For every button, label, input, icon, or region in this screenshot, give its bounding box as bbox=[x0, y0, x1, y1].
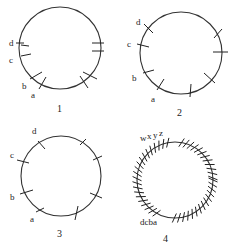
tick-d bbox=[38, 141, 45, 149]
label-d: d bbox=[9, 38, 14, 48]
panel-number: 3 bbox=[57, 228, 62, 239]
label-b: b bbox=[10, 192, 15, 202]
tick-a bbox=[39, 77, 46, 89]
tick bbox=[80, 76, 88, 88]
panel-4: w x y z dcba 4 bbox=[133, 128, 218, 244]
circle-3 bbox=[21, 136, 101, 216]
panel-1: d c b a 1 bbox=[9, 7, 104, 114]
figure: d c b a 1 d c b a 2 d c b a 3 bbox=[0, 0, 232, 244]
label-d: d bbox=[136, 17, 141, 27]
panel-number: 2 bbox=[177, 107, 182, 118]
tick-b bbox=[20, 190, 33, 194]
label-c: c bbox=[127, 39, 131, 49]
tick bbox=[21, 45, 29, 46]
tick-c bbox=[21, 54, 31, 56]
circle-1 bbox=[19, 7, 101, 89]
tick bbox=[83, 72, 97, 79]
panel-number: 1 bbox=[57, 103, 62, 114]
panel-3: d c b a 3 bbox=[10, 126, 102, 239]
circle-2 bbox=[140, 12, 222, 94]
label-b: b bbox=[22, 81, 27, 91]
label-a: a bbox=[151, 94, 155, 104]
tick-c bbox=[137, 44, 149, 47]
tick bbox=[90, 193, 102, 198]
label-w: w bbox=[140, 133, 147, 143]
label-a: a bbox=[30, 214, 34, 224]
dense-ticks bbox=[133, 138, 218, 223]
label-c: c bbox=[10, 150, 14, 160]
tick-b bbox=[30, 72, 42, 79]
panel-2: d c b a 2 bbox=[127, 12, 228, 118]
label-a: a bbox=[31, 90, 35, 100]
label-z: z bbox=[159, 128, 163, 138]
label-x: x bbox=[147, 131, 152, 141]
label-y: y bbox=[153, 130, 158, 140]
label-dcba: dcba bbox=[140, 217, 157, 227]
tick bbox=[190, 84, 191, 97]
panel-number: 4 bbox=[163, 233, 168, 244]
label-c: c bbox=[9, 55, 13, 65]
label-d: d bbox=[32, 126, 37, 136]
label-b: b bbox=[132, 73, 137, 83]
tick-d bbox=[144, 24, 153, 33]
